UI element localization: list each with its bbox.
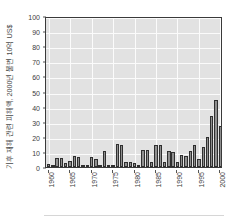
bar bbox=[206, 137, 209, 168]
y-tick-label: 80 bbox=[32, 44, 40, 51]
bar bbox=[90, 157, 93, 167]
x-tick-label-text: 2000 bbox=[219, 172, 226, 188]
x-tick-label-text: 1985 bbox=[155, 172, 162, 188]
bar bbox=[146, 150, 149, 167]
y-tick-label: 50 bbox=[32, 89, 40, 96]
bar bbox=[111, 165, 114, 167]
bar bbox=[184, 156, 187, 167]
bar bbox=[171, 152, 174, 167]
chart-figure: 기후 재해 관련 피해액, 2000년 불변 10억 US$ 010203040… bbox=[0, 0, 237, 224]
x-tick-label: 1965 bbox=[64, 172, 74, 204]
bar bbox=[103, 151, 106, 167]
bar bbox=[47, 164, 50, 167]
bar bbox=[64, 163, 67, 167]
bar bbox=[159, 145, 162, 167]
bar bbox=[167, 151, 170, 167]
y-axis-ticks: 0102030405060708090100 bbox=[16, 12, 42, 170]
bar bbox=[210, 116, 213, 167]
bar bbox=[154, 145, 157, 167]
x-tick-label: 1980 bbox=[129, 172, 139, 204]
x-tick-label: 2000 bbox=[214, 172, 224, 204]
bar bbox=[86, 165, 89, 167]
bar bbox=[55, 158, 58, 167]
bar bbox=[193, 145, 196, 167]
x-tick-label: 1975 bbox=[107, 172, 117, 204]
y-tick-label: 90 bbox=[32, 29, 40, 36]
y-tick-label: 0 bbox=[36, 165, 40, 172]
x-tick-label: 1995 bbox=[193, 172, 203, 204]
bar bbox=[77, 157, 80, 167]
bar bbox=[180, 155, 183, 167]
bar bbox=[189, 151, 192, 167]
bar bbox=[94, 159, 97, 167]
bar bbox=[81, 165, 84, 167]
bar bbox=[120, 145, 123, 167]
bar bbox=[214, 100, 217, 167]
y-tick-label: 100 bbox=[28, 14, 40, 21]
bar bbox=[150, 162, 153, 167]
bar bbox=[60, 158, 63, 167]
bar bbox=[68, 161, 71, 167]
y-tick-label: 60 bbox=[32, 74, 40, 81]
bar bbox=[98, 165, 101, 167]
bar bbox=[137, 165, 140, 167]
plot-area bbox=[45, 17, 222, 168]
x-tick-label: 1985 bbox=[150, 172, 160, 204]
bar bbox=[73, 156, 76, 167]
x-tick-label: 1990 bbox=[171, 172, 181, 204]
bar bbox=[141, 150, 144, 167]
y-axis-title: 기후 재해 관련 피해액, 2000년 불변 10억 US$ bbox=[2, 14, 16, 179]
bar bbox=[163, 162, 166, 167]
y-axis-title-text: 기후 재해 관련 피해액, 2000년 불변 10억 US$ bbox=[4, 24, 14, 169]
y-tick-label: 70 bbox=[32, 59, 40, 66]
y-tick-label: 30 bbox=[32, 119, 40, 126]
x-tick-label-text: 1960 bbox=[48, 172, 55, 188]
bar bbox=[129, 162, 132, 167]
bar bbox=[197, 159, 200, 167]
bar bbox=[124, 162, 127, 167]
x-tick-label-text: 1975 bbox=[112, 172, 119, 188]
bar bbox=[133, 163, 136, 167]
x-tick-label-text: 1990 bbox=[176, 172, 183, 188]
bottom-divider bbox=[44, 215, 224, 216]
y-tick-label: 40 bbox=[32, 104, 40, 111]
x-tick-label-text: 1970 bbox=[91, 172, 98, 188]
bar-series bbox=[46, 18, 221, 167]
bar bbox=[219, 126, 222, 167]
bar bbox=[202, 147, 205, 167]
x-tick-label: 1970 bbox=[86, 172, 96, 204]
x-tick-label: 1960 bbox=[43, 172, 53, 204]
x-tick-label-text: 1995 bbox=[198, 172, 205, 188]
bar bbox=[176, 162, 179, 167]
x-tick-label-text: 1980 bbox=[134, 172, 141, 188]
y-tick-label: 10 bbox=[32, 149, 40, 156]
bar bbox=[107, 165, 110, 167]
y-tick-label: 20 bbox=[32, 134, 40, 141]
bar bbox=[116, 144, 119, 167]
x-axis-ticks: 196019651970197519801985199019952000 bbox=[45, 170, 222, 204]
bar bbox=[51, 165, 54, 167]
x-tick-label-text: 1965 bbox=[69, 172, 76, 188]
